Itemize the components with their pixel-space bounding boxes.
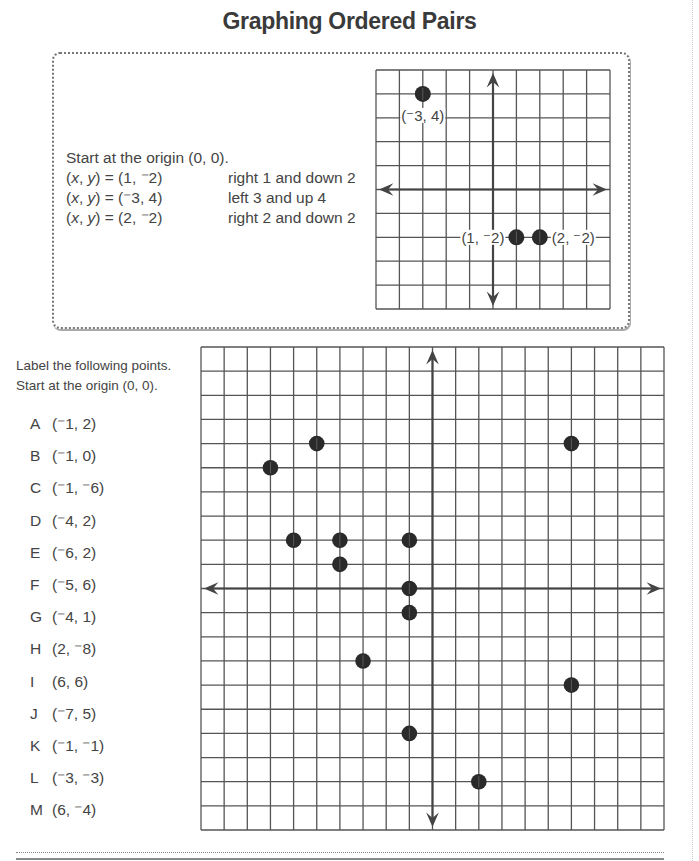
exercise-instructions: Label the following points. Start at the…	[16, 356, 171, 396]
instruction-line: Label the following points.	[16, 356, 171, 376]
exercise-coordinate-grid[interactable]	[196, 342, 672, 836]
point-item-h: H(2, ⁻8)	[30, 640, 104, 672]
point-letter: D	[30, 512, 52, 544]
point-coordinate: (⁻1, ⁻1)	[52, 737, 104, 769]
point-item-m: M(6, ⁻4)	[30, 801, 104, 833]
example-description: left 3 and up 4	[228, 188, 326, 208]
example-equation: (x, y) = (⁻3, 4)	[66, 188, 228, 208]
page-title: Graphing Ordered Pairs	[0, 8, 699, 35]
point-item-i: I(6, 6)	[30, 673, 104, 705]
point-label: (2, ⁻2)	[552, 229, 595, 246]
point-letter: I	[30, 673, 52, 705]
example-equation: (x, y) = (2, ⁻2)	[66, 208, 228, 228]
example-description: right 2 and down 2	[228, 208, 356, 228]
axes	[204, 350, 661, 827]
point-coordinate: (⁻7, 5)	[52, 705, 96, 737]
point-letter: G	[30, 608, 52, 640]
point-letter: H	[30, 640, 52, 672]
point-item-l: L(⁻3, ⁻3)	[30, 769, 104, 801]
page-edge	[692, 0, 693, 861]
point-item-b: B(⁻1, 0)	[30, 447, 104, 479]
point-letter: J	[30, 705, 52, 737]
example-coordinate-grid: (⁻3, 4)(1, ⁻2)(2, ⁻2)	[370, 64, 620, 316]
example-instructions: Start at the origin (0, 0). (x, y) = (1,…	[66, 148, 356, 228]
point-letter: B	[30, 447, 52, 479]
point-item-g: G(⁻4, 1)	[30, 608, 104, 640]
point-coordinate: (⁻1, 2)	[52, 415, 96, 447]
example-description: right 1 and down 2	[228, 168, 356, 188]
point-letter: K	[30, 737, 52, 769]
point-item-c: C(⁻1, ⁻6)	[30, 479, 104, 511]
points-list: A(⁻1, 2)B(⁻1, 0)C(⁻1, ⁻6)D(⁻4, 2)E(⁻6, 2…	[30, 415, 104, 833]
point-letter: M	[30, 801, 52, 833]
point-item-j: J(⁻7, 5)	[30, 705, 104, 737]
point-coordinate: (6, 6)	[52, 673, 88, 705]
point-letter: A	[30, 415, 52, 447]
instruction-line: Start at the origin (0, 0).	[16, 376, 171, 396]
point-item-k: K(⁻1, ⁻1)	[30, 737, 104, 769]
example-row: (x, y) = (⁻3, 4) left 3 and up 4	[66, 188, 356, 208]
example-intro: Start at the origin (0, 0).	[66, 148, 356, 168]
point-letter: F	[30, 576, 52, 608]
point-coordinate: (⁻6, 2)	[52, 544, 96, 576]
point-coordinate: (⁻4, 1)	[52, 608, 96, 640]
point-coordinate: (⁻1, 0)	[52, 447, 96, 479]
point-item-d: D(⁻4, 2)	[30, 512, 104, 544]
point-coordinate: (6, ⁻4)	[52, 801, 96, 833]
point-coordinate: (⁻1, ⁻6)	[52, 479, 104, 511]
point-coordinate: (⁻5, 6)	[52, 576, 96, 608]
point-label: (1, ⁻2)	[461, 229, 504, 246]
point-coordinate: (⁻4, 2)	[52, 512, 96, 544]
point-coordinate: (⁻3, ⁻3)	[52, 769, 104, 801]
point-item-e: E(⁻6, 2)	[30, 544, 104, 576]
example-row: (x, y) = (2, ⁻2) right 2 and down 2	[66, 208, 356, 228]
point-letter: L	[30, 769, 52, 801]
point-item-f: F(⁻5, 6)	[30, 576, 104, 608]
example-row: (x, y) = (1, ⁻2) right 1 and down 2	[66, 168, 356, 188]
example-equation: (x, y) = (1, ⁻2)	[66, 168, 228, 188]
point-letter: C	[30, 479, 52, 511]
bottom-divider	[16, 852, 664, 860]
point-label: (⁻3, 4)	[401, 107, 444, 124]
point-letter: E	[30, 544, 52, 576]
point-coordinate: (2, ⁻8)	[52, 640, 96, 672]
point-item-a: A(⁻1, 2)	[30, 415, 104, 447]
